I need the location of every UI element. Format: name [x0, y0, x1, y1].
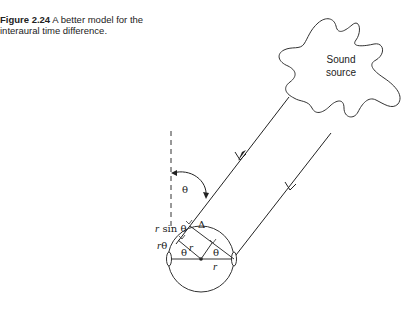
theta-label-left: θ — [181, 247, 187, 258]
r-sin-theta-label: r sin θ — [155, 222, 186, 234]
theta-angle-arc — [173, 172, 206, 197]
left-ear — [167, 252, 172, 266]
right-angle-marker-1 — [186, 220, 192, 224]
sound-ray-left — [176, 97, 289, 244]
theta-label-right: θ — [213, 247, 219, 258]
sound-ray-right — [236, 133, 331, 255]
r-theta-label: rθ — [157, 239, 167, 251]
center-perpendicular — [201, 243, 212, 259]
ray-right-arrowhead — [285, 182, 296, 190]
delta-label: Δ — [198, 219, 205, 230]
r-label-radius: r — [189, 241, 194, 253]
itd-diagram: Sound source θ Δ r sin θ rθ r θ θ r — [0, 0, 413, 309]
sound-source-label-line1: Sound — [327, 54, 356, 65]
theta-label-top: θ — [182, 184, 188, 195]
sound-source-label-line2: source — [326, 67, 356, 78]
right-angle-marker-3 — [210, 239, 216, 243]
r-label-axis: r — [213, 260, 218, 272]
